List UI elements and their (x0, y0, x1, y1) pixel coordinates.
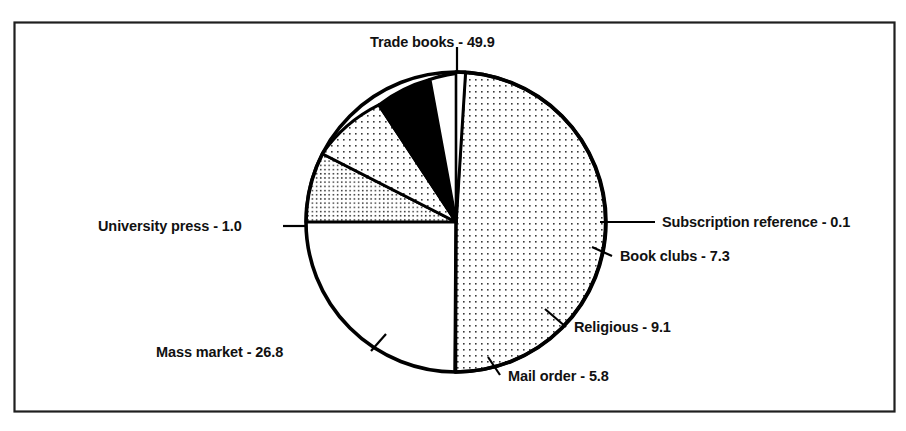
slice-label-book-clubs: Book clubs - 7.3 (620, 249, 730, 264)
slice-label-mass-market: Mass market - 26.8 (156, 345, 283, 360)
pie-chart-figure: Trade books - 49.9 Subscription referenc… (0, 0, 906, 431)
slice-label-subscription-reference: Subscription reference - 0.1 (662, 215, 850, 230)
slice-label-trade-books: Trade books - 49.9 (370, 35, 495, 50)
slice-label-religious: Religious - 9.1 (574, 320, 671, 335)
slice-label-university-press: University press - 1.0 (98, 219, 242, 234)
pie-slice-subscription-reference (455, 222, 456, 372)
slice-label-mail-order: Mail order - 5.8 (508, 369, 609, 384)
